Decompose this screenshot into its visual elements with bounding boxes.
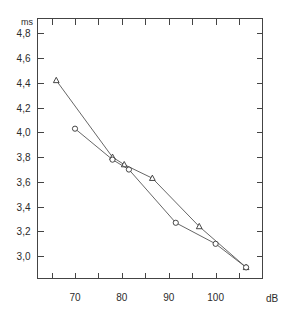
x-tick-label: 100 <box>207 292 224 303</box>
x-tick-label: 90 <box>163 292 175 303</box>
y-tick-label: 3,6 <box>17 177 31 188</box>
y-axis-tick-labels: 3,03,23,43,63,84,04,24,44,64,8 <box>17 28 31 262</box>
data-point-circle <box>173 220 178 225</box>
y-axis-unit-label: ms <box>21 17 33 27</box>
series-line <box>75 129 246 268</box>
y-tick-label: 3,2 <box>17 226 31 237</box>
x-axis-unit-label: dB <box>266 293 279 304</box>
x-tick-label: 80 <box>116 292 128 303</box>
data-series-layer <box>53 77 249 270</box>
y-tick-label: 4,6 <box>17 53 31 64</box>
y-axis-ticks-right <box>257 34 263 257</box>
x-axis-ticks-bottom <box>53 273 240 279</box>
series-line <box>56 80 246 267</box>
data-point-circle <box>110 157 115 162</box>
y-tick-label: 3,4 <box>17 202 31 213</box>
y-tick-label: 4,2 <box>17 103 31 114</box>
y-tick-label: 3,0 <box>17 251 31 262</box>
y-tick-label: 3,8 <box>17 152 31 163</box>
data-point-circle <box>243 265 248 270</box>
y-tick-label: 4,8 <box>17 28 31 39</box>
plot-frame <box>38 19 263 279</box>
clipped-caption <box>0 311 282 320</box>
x-tick-label: 70 <box>69 292 81 303</box>
chart-figure: 3,03,23,43,63,84,04,24,44,64,8 708090100… <box>0 0 282 320</box>
y-tick-label: 4,4 <box>17 78 31 89</box>
data-point-circle <box>126 167 131 172</box>
data-point-triangle <box>149 175 155 180</box>
x-axis-tick-labels: 708090100 <box>69 292 224 303</box>
x-axis-ticks-top <box>53 19 240 25</box>
y-axis-ticks-left <box>38 34 44 257</box>
data-point-circle <box>72 126 77 131</box>
data-point-circle <box>213 241 218 246</box>
series-circle-series <box>72 126 248 270</box>
series-triangle-series <box>53 77 249 269</box>
y-tick-label: 4,0 <box>17 127 31 138</box>
data-point-triangle <box>53 77 59 82</box>
